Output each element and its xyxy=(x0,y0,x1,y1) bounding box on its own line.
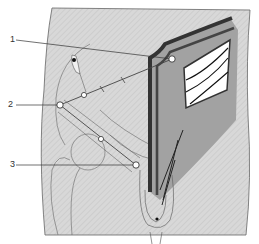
dark-dot-lower xyxy=(155,217,158,220)
marker-2 xyxy=(57,102,63,108)
dark-dot-upper xyxy=(72,58,76,62)
marker-3 xyxy=(133,162,139,168)
label-2: 2 xyxy=(8,100,13,109)
marker-1 xyxy=(169,56,175,62)
marker-mid-upper xyxy=(81,92,86,97)
label-3: 3 xyxy=(10,160,15,169)
anatomical-diagram: 1 2 3 xyxy=(0,0,259,244)
label-1: 1 xyxy=(10,35,15,44)
marker-mid-lower xyxy=(98,136,103,141)
diagram-canvas xyxy=(0,0,259,244)
